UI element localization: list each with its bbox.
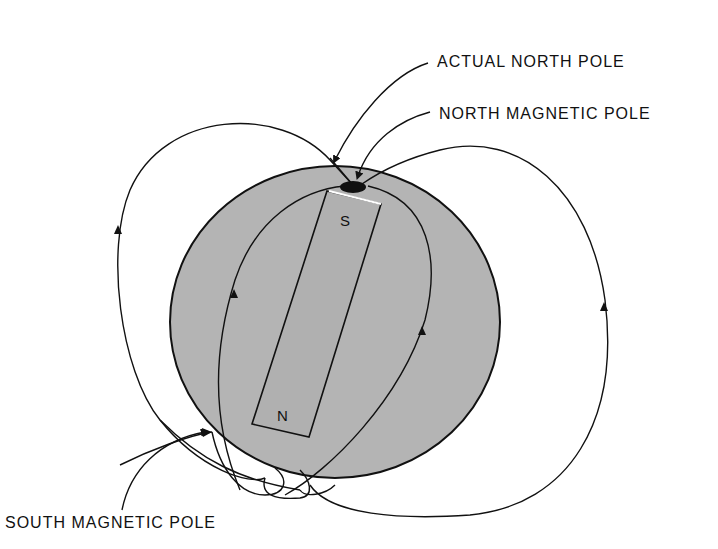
leader-actual-north-pole — [335, 63, 428, 160]
magnet-north-letter: N — [277, 407, 288, 424]
magnetic-field-diagram: S N — [0, 0, 718, 549]
label-south-magnetic-pole: SOUTH MAGNETIC POLE — [5, 514, 216, 532]
magnet-south-letter: S — [340, 212, 350, 229]
label-actual-north-pole: ACTUAL NORTH POLE — [437, 53, 625, 71]
north-magnetic-pole-marker — [340, 181, 366, 193]
leader-south-magnetic-pole — [122, 432, 205, 510]
arrow-up-icon — [600, 302, 608, 311]
label-north-magnetic-pole: NORTH MAGNETIC POLE — [439, 105, 651, 123]
